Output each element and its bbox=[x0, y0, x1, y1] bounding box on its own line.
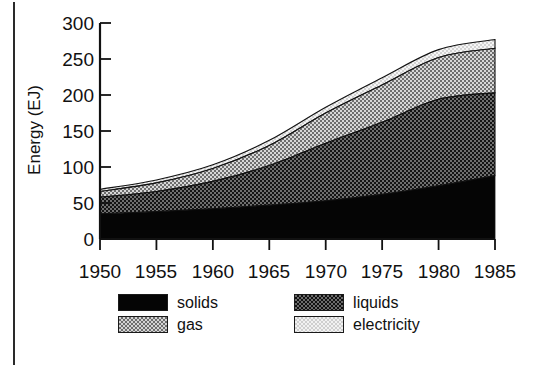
x-tick-1985: 1985 bbox=[474, 261, 516, 282]
legend-item-gas: gas bbox=[118, 316, 256, 333]
y-axis-title: Energy (EJ) bbox=[25, 85, 44, 175]
y-axis-tick-labels: 300 250 200 150 100 50 0 bbox=[62, 13, 94, 250]
chart-series-areas bbox=[100, 40, 495, 239]
y-tick-300: 300 bbox=[62, 13, 94, 34]
legend-label-electricity: electricity bbox=[353, 317, 420, 333]
y-tick-100: 100 bbox=[62, 157, 94, 178]
x-tick-1955: 1955 bbox=[135, 261, 177, 282]
y-tick-150: 150 bbox=[62, 121, 94, 142]
chart-legend: solids liquids gas electricity bbox=[118, 294, 458, 344]
x-tick-1970: 1970 bbox=[305, 261, 347, 282]
x-tick-1950: 1950 bbox=[79, 261, 121, 282]
x-tick-1980: 1980 bbox=[418, 261, 460, 282]
legend-item-solids: solids bbox=[118, 294, 256, 311]
stacked-area-chart: 300 250 200 150 100 50 0 Energy (EJ) 195… bbox=[0, 0, 538, 290]
legend-swatch-gas bbox=[118, 316, 168, 333]
legend-label-gas: gas bbox=[177, 317, 203, 333]
legend-item-electricity: electricity bbox=[294, 316, 458, 333]
legend-swatch-solids bbox=[118, 294, 168, 311]
y-tick-0: 0 bbox=[83, 229, 94, 250]
legend-swatch-liquids bbox=[294, 294, 344, 311]
chart-plot-area: 300 250 200 150 100 50 0 Energy (EJ) 195… bbox=[0, 0, 538, 290]
legend-swatch-electricity bbox=[294, 316, 344, 333]
y-tick-250: 250 bbox=[62, 49, 94, 70]
x-tick-1960: 1960 bbox=[192, 261, 234, 282]
figure-container: 300 250 200 150 100 50 0 Energy (EJ) 195… bbox=[0, 0, 538, 370]
x-tick-1975: 1975 bbox=[361, 261, 403, 282]
legend-label-liquids: liquids bbox=[353, 295, 398, 311]
x-tick-1965: 1965 bbox=[248, 261, 290, 282]
legend-item-liquids: liquids bbox=[294, 294, 458, 311]
legend-label-solids: solids bbox=[177, 295, 218, 311]
x-axis-ticks bbox=[100, 239, 495, 250]
y-tick-50: 50 bbox=[73, 193, 94, 214]
x-axis-tick-labels: 1950 1955 1960 1965 1970 1975 1980 1985 bbox=[79, 261, 516, 282]
y-tick-200: 200 bbox=[62, 85, 94, 106]
